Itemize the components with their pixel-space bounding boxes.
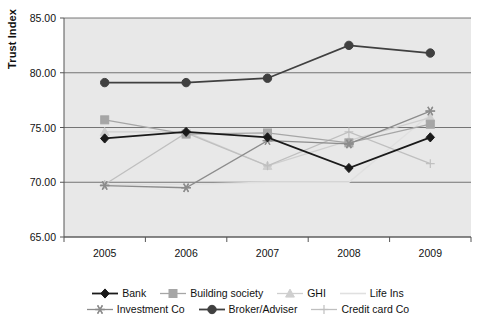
- legend-key-investment-co-icon: [87, 304, 113, 315]
- legend-key-credit-card-co-icon: [311, 304, 337, 315]
- x-tick-label-2007: 2007: [256, 247, 279, 259]
- legend-key-ghi-icon: [277, 288, 303, 299]
- legend-item-investment-co[interactable]: Investment Co: [87, 303, 185, 316]
- legend-item-broker-adviser[interactable]: Broker/Adviser: [199, 303, 298, 316]
- legend-label: Life Ins: [370, 287, 404, 300]
- legend-row-1: BankBuilding societyGHILife Ins: [92, 287, 403, 300]
- legend-label: Bank: [122, 287, 146, 300]
- x-tick-label-2008: 2008: [337, 247, 360, 259]
- legend-marker-plus-icon: [311, 304, 337, 315]
- x-tick-label-2005: 2005: [93, 247, 116, 259]
- legend-marker-triangle-icon: [277, 288, 303, 299]
- legend-marker-diamond-icon: [92, 288, 118, 299]
- legend-marker-square-icon: [160, 288, 186, 299]
- legend-label: Credit card Co: [341, 303, 409, 316]
- legend-item-credit-card-co[interactable]: Credit card Co: [311, 303, 409, 316]
- x-tick-label-2009: 2009: [419, 247, 442, 259]
- legend-item-life-ins[interactable]: Life Ins: [340, 287, 404, 300]
- legend-label: Investment Co: [117, 303, 185, 316]
- legend-marker-star-icon: [87, 304, 113, 315]
- legend-key-broker-adviser-icon: [199, 304, 225, 315]
- legend-label: Building society: [190, 287, 263, 300]
- legend-marker-none-icon: [340, 288, 366, 299]
- x-tick-label-2006: 2006: [174, 247, 197, 259]
- chart-legend: BankBuilding societyGHILife Ins Investme…: [0, 287, 496, 316]
- trust-index-line-chart: Trust Index 65.0070.0075.0080.0085.00 Ba…: [0, 0, 496, 324]
- legend-item-ghi[interactable]: GHI: [277, 287, 326, 300]
- plot-area: [0, 0, 496, 324]
- legend-key-bank-icon: [92, 288, 118, 299]
- legend-item-building-society[interactable]: Building society: [160, 287, 263, 300]
- legend-label: GHI: [307, 287, 326, 300]
- legend-key-life-ins-icon: [340, 288, 366, 299]
- legend-marker-circle-icon: [199, 304, 225, 315]
- legend-row-2: Investment CoBroker/AdviserCredit card C…: [87, 303, 409, 316]
- legend-label: Broker/Adviser: [229, 303, 298, 316]
- legend-item-bank[interactable]: Bank: [92, 287, 146, 300]
- legend-key-building-society-icon: [160, 288, 186, 299]
